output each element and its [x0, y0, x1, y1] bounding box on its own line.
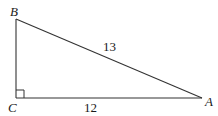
vertex-label-b: B — [10, 5, 18, 18]
side-length-ab: 13 — [103, 40, 116, 53]
side-length-ca: 12 — [84, 101, 97, 114]
right-angle-marker — [16, 90, 24, 98]
side-ab-hypotenuse — [16, 19, 202, 98]
triangle-figure — [0, 0, 218, 116]
vertex-label-a: A — [205, 95, 213, 108]
vertex-label-c: C — [8, 101, 17, 114]
